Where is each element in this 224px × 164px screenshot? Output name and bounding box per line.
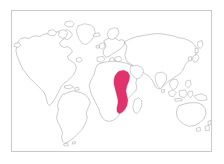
kamchatka [197,41,203,49]
new-guinea [194,94,207,101]
continent-europe [93,28,125,65]
philippines [185,80,191,88]
new-zealand-south [205,125,209,130]
hispaniola [74,87,79,90]
ireland [96,45,99,48]
sulawesi [188,91,193,98]
madagascar [133,98,142,114]
java [174,98,182,101]
world-map-svg [12,11,211,151]
victoria-island [48,30,57,36]
distribution-map-figure [0,0,224,164]
newfoundland [76,57,82,62]
continent-australia [176,103,211,132]
tasmania [196,127,200,131]
continent-north-america [14,21,95,106]
south-america-mainland [57,91,91,143]
sri-lanka [161,89,164,92]
continent-south-america [57,91,91,146]
europe-mainland [103,38,125,58]
map-frame [11,10,212,152]
scandinavia [107,28,119,40]
new-zealand-north [208,120,211,124]
ellesmere-island [64,21,74,27]
borneo [179,90,187,98]
sumatra [168,90,176,97]
british-isles [99,43,105,50]
continent-asia [125,34,203,93]
tierra-del-fuego [63,143,68,146]
korea [188,56,191,60]
southeast-asia-peninsula [169,79,178,90]
greenland [76,24,95,45]
cuba [64,85,73,89]
iberia [97,56,105,62]
australia-mainland [176,103,206,127]
falkland-islands [72,142,75,144]
sakhalin [195,48,198,53]
